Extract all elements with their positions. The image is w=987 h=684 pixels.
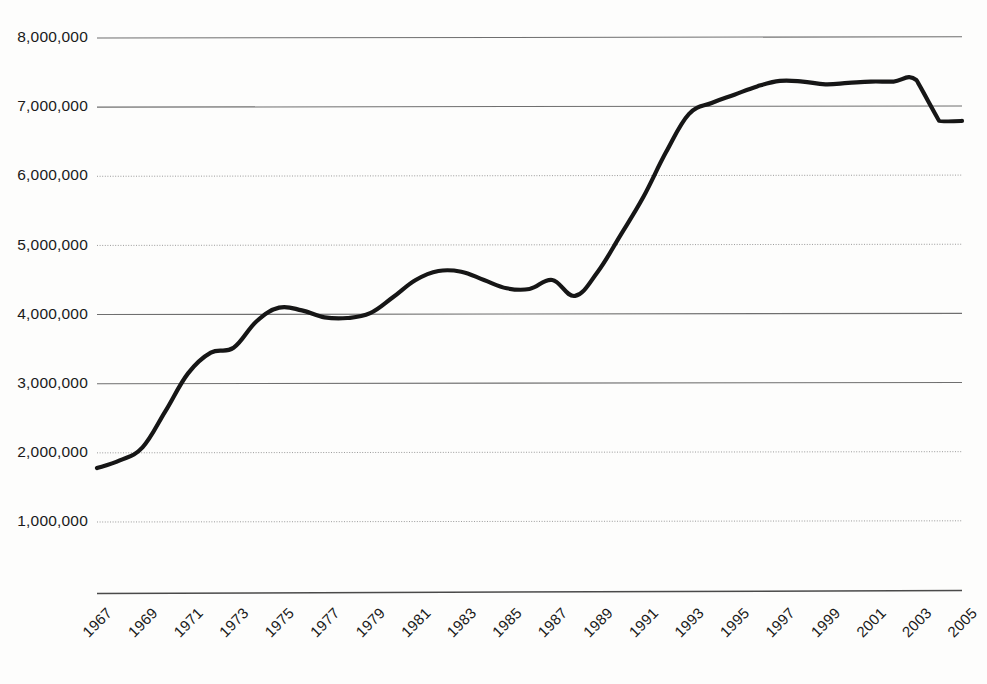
- x-axis-tick-label: 1977: [307, 604, 343, 640]
- x-axis-tick-label: 1985: [489, 604, 525, 640]
- gridline-2000000: [97, 452, 962, 453]
- x-axis-tick-label: 2005: [944, 604, 980, 640]
- x-axis-tick-label: 1995: [716, 604, 752, 640]
- x-axis-tick-label: 1983: [443, 604, 479, 640]
- x-axis-tick-label: 1967: [79, 604, 115, 640]
- y-axis-tick-label: 6,000,000: [17, 166, 88, 183]
- x-axis-tick-label: 1997: [762, 604, 798, 640]
- x-axis-tick-label: 1999: [807, 604, 843, 640]
- y-axis-tick-labels: 1,000,0002,000,0003,000,0004,000,0005,00…: [17, 28, 88, 529]
- gridlines-group: [97, 37, 962, 522]
- x-axis-tick-label: 1987: [534, 604, 570, 640]
- gridline-5000000: [97, 244, 962, 245]
- x-axis-tick-labels: 1967196919711973197519771979198119831985…: [79, 604, 980, 640]
- x-axis-line: [97, 591, 962, 594]
- x-axis-tick-label: 2001: [853, 604, 889, 640]
- y-axis-tick-label: 5,000,000: [17, 236, 88, 253]
- y-axis-tick-label: 1,000,000: [17, 512, 88, 529]
- y-axis-tick-label: 2,000,000: [17, 443, 88, 460]
- x-axis-tick-label: 2003: [898, 604, 934, 640]
- x-axis-tick-label: 1991: [625, 604, 661, 640]
- x-axis-tick-label: 1971: [170, 604, 206, 640]
- gridline-4000000: [97, 313, 962, 314]
- x-axis-tick-label: 1989: [580, 604, 616, 640]
- y-axis-tick-label: 4,000,000: [17, 305, 88, 322]
- x-axis-tick-label: 1993: [671, 604, 707, 640]
- gridline-3000000: [97, 383, 962, 384]
- chart-canvas: 1,000,0002,000,0003,000,0004,000,0005,00…: [0, 0, 987, 684]
- x-axis-tick-label: 1981: [398, 604, 434, 640]
- gridline-8000000: [97, 37, 962, 38]
- line-chart-figure: 1,000,0002,000,0003,000,0004,000,0005,00…: [0, 0, 987, 684]
- gridline-1000000: [97, 521, 962, 522]
- x-axis-tick-label: 1969: [124, 604, 160, 640]
- data-series-line: [97, 77, 962, 468]
- y-axis-tick-label: 8,000,000: [17, 28, 88, 45]
- y-axis-tick-label: 3,000,000: [17, 374, 88, 391]
- gridline-7000000: [97, 106, 962, 107]
- x-axis-tick-label: 1975: [261, 604, 297, 640]
- x-axis-tick-label: 1973: [216, 604, 252, 640]
- gridline-6000000: [97, 175, 962, 176]
- x-axis-tick-label: 1979: [352, 604, 388, 640]
- y-axis-tick-label: 7,000,000: [17, 97, 88, 114]
